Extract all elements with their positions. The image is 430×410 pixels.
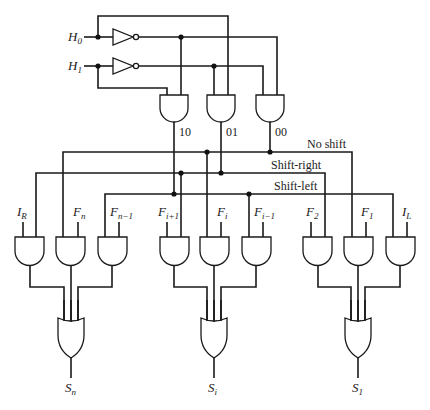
- and-gate-00: [256, 95, 284, 122]
- svg-text:F2: F2: [305, 204, 319, 221]
- data-input-stubs: [23, 222, 407, 237]
- input-label-h0: H0: [67, 29, 82, 46]
- or-input-wiring: [30, 266, 400, 320]
- output-label-sn: Sn: [65, 380, 77, 397]
- and-gate-row: [15, 237, 415, 266]
- svg-text:Fn−1: Fn−1: [109, 204, 133, 221]
- svg-text:Fi−1: Fi−1: [253, 204, 275, 221]
- svg-text:Fi: Fi: [216, 204, 228, 221]
- control-label-shift-left: Shift-left: [274, 179, 318, 193]
- decoder-label-01: 01: [226, 125, 238, 139]
- inverter-h0: [113, 29, 139, 45]
- inverter-h1: [113, 58, 139, 74]
- decoder-label-00: 00: [275, 125, 287, 139]
- or-gate-si: [201, 318, 227, 358]
- decoder-label-10: 10: [179, 125, 191, 139]
- shifter-circuit-diagram: H0 H1: [0, 0, 430, 410]
- svg-text:IL: IL: [401, 204, 411, 221]
- output-label-s1: S1: [352, 380, 363, 397]
- input-wiring: [84, 16, 277, 95]
- or-input-stubs: [64, 300, 365, 322]
- control-label-no-shift: No shift: [307, 137, 347, 151]
- svg-text:Fi+1: Fi+1: [157, 204, 179, 221]
- and-gate-01: [207, 95, 235, 122]
- or-gate-sn: [58, 318, 84, 358]
- svg-text:Fn: Fn: [72, 204, 86, 221]
- and-gate-10: [160, 95, 188, 122]
- control-label-shift-right: Shift-right: [271, 158, 322, 172]
- svg-text:F1: F1: [360, 204, 373, 221]
- output-label-si: Si: [208, 380, 218, 397]
- input-label-h1: H1: [67, 58, 82, 75]
- or-outputs: [71, 358, 358, 378]
- svg-text:IR: IR: [16, 204, 27, 221]
- or-gate-s1: [345, 318, 371, 358]
